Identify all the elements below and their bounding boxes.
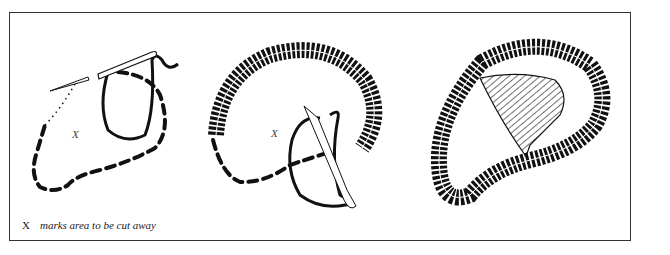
panel-step-2: X <box>213 50 374 208</box>
panel-step-1: X <box>34 52 178 191</box>
caption-text: marks area to be cut away <box>40 219 156 231</box>
caption-symbol: X <box>22 219 30 231</box>
embroidery-illustration: X X <box>0 0 670 255</box>
figure-caption: Xmarks area to be cut away <box>22 219 156 231</box>
svg-text:X: X <box>71 128 80 140</box>
svg-text:X: X <box>270 127 279 139</box>
panel-step-3 <box>439 47 603 198</box>
